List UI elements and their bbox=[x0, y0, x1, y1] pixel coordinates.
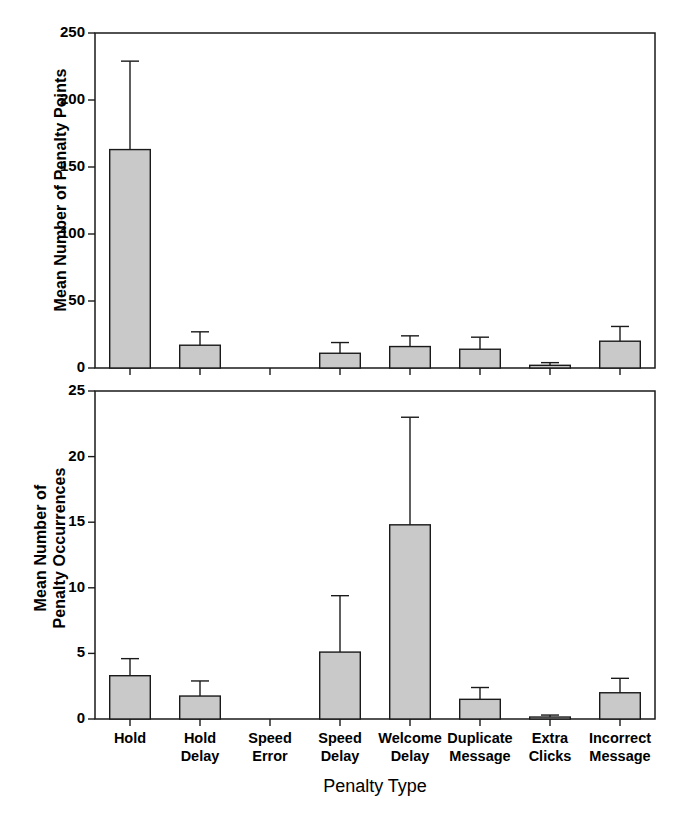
y-axis-tick-label: 0 bbox=[30, 709, 85, 726]
bar bbox=[530, 717, 571, 719]
bar-group bbox=[460, 688, 501, 719]
bar bbox=[390, 525, 431, 719]
bar-group bbox=[390, 417, 431, 719]
bar bbox=[530, 365, 571, 368]
bar bbox=[180, 345, 221, 368]
bar bbox=[320, 652, 361, 719]
y-axis-tick-label: 25 bbox=[30, 381, 85, 398]
bar bbox=[110, 676, 151, 719]
x-axis-title: Penalty Type bbox=[95, 776, 655, 797]
panel-penalty-points: Mean Number of Penalty Points bbox=[0, 0, 679, 380]
bar bbox=[320, 353, 361, 368]
y-axis-tick-label: 100 bbox=[30, 224, 85, 241]
y-axis-tick-label: 150 bbox=[30, 157, 85, 174]
y-axis-tick-label: 0 bbox=[30, 358, 85, 375]
bar-group bbox=[390, 336, 431, 368]
bar-group bbox=[110, 659, 151, 719]
plot-frame bbox=[95, 33, 655, 368]
bar-group bbox=[320, 596, 361, 719]
bar bbox=[600, 693, 641, 719]
y-axis-tick-label: 200 bbox=[30, 90, 85, 107]
bar-group bbox=[600, 678, 641, 719]
y-axis-tick-label: 50 bbox=[30, 291, 85, 308]
bar-group bbox=[600, 326, 641, 368]
bar bbox=[600, 341, 641, 368]
y-axis-tick-label: 15 bbox=[30, 512, 85, 529]
bar-group bbox=[180, 681, 221, 719]
x-axis-tick-label: Incorrect Message bbox=[579, 729, 661, 765]
y-axis-tick-label: 5 bbox=[30, 643, 85, 660]
bar-group bbox=[460, 337, 501, 368]
bar bbox=[390, 347, 431, 368]
bar-group bbox=[530, 363, 571, 368]
bar bbox=[460, 349, 501, 368]
bar bbox=[110, 150, 151, 368]
bar-group bbox=[530, 715, 571, 719]
y-axis-tick-label: 10 bbox=[30, 578, 85, 595]
bar bbox=[180, 696, 221, 719]
y-axis-tick-label: 250 bbox=[30, 23, 85, 40]
figure-container: Mean Number of Penalty Points Mean Numbe… bbox=[0, 0, 679, 818]
plot-frame bbox=[95, 391, 655, 719]
bar-group bbox=[180, 332, 221, 368]
bar-group bbox=[320, 343, 361, 368]
y-axis-tick-label: 20 bbox=[30, 447, 85, 464]
plot-area-penalty-points bbox=[0, 0, 679, 380]
bar-group bbox=[110, 61, 151, 368]
bar bbox=[460, 699, 501, 719]
